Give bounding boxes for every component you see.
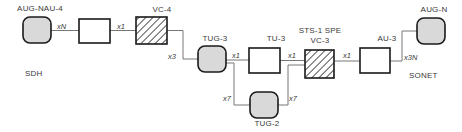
- edge-label-e-aug-nau4-au4: xN: [57, 22, 66, 31]
- edge-label-e-tug3-tug2: x7: [223, 94, 231, 103]
- node-label-vc-3: STS-1 SPEVC-3: [294, 26, 346, 45]
- node-label-vc-4: VC-4: [136, 5, 188, 15]
- domain-label-sdh: SDH: [25, 69, 43, 78]
- edge-label-e-tug3-tu3: x1: [232, 51, 240, 60]
- node-vc-3[interactable]: [305, 50, 334, 78]
- domain-label-sonet: SONET: [409, 71, 438, 80]
- node-tug-3[interactable]: [198, 46, 226, 72]
- node-vc-4[interactable]: [136, 17, 167, 44]
- node-tug-2[interactable]: [250, 92, 278, 118]
- diagram-svg: [0, 0, 462, 132]
- edge-label-e-tug2-vc3: x7: [289, 94, 297, 103]
- node-au-4[interactable]: [79, 19, 110, 43]
- node-au-3[interactable]: [360, 48, 390, 73]
- edge-label-e-tu3-vc3: x1: [288, 51, 296, 60]
- diagram-canvas: AUG-NAU-4VC-4TUG-3TU-3STS-1 SPEVC-3AU-3A…: [0, 0, 462, 132]
- edge-label-e-vc3-au3: x1: [343, 51, 351, 60]
- node-label-au-3: AU-3: [361, 34, 413, 44]
- node-aug-n[interactable]: [417, 18, 445, 44]
- edge-label-e-vc4-tug3: x3: [168, 52, 176, 61]
- edge-label-e-au3-augn: x3N: [404, 53, 417, 62]
- node-label-aug-nau-4: AUG-NAU-4: [14, 4, 66, 14]
- node-aug-nau-4[interactable]: [23, 17, 51, 43]
- node-label-tug-2: TUG-2: [241, 119, 293, 129]
- node-tu-3[interactable]: [249, 48, 280, 73]
- node-label-aug-n: AUG-N: [408, 5, 460, 15]
- node-label-tug-3: TUG-3: [189, 34, 241, 44]
- edge-label-e-au4-vc4: x1: [117, 22, 125, 31]
